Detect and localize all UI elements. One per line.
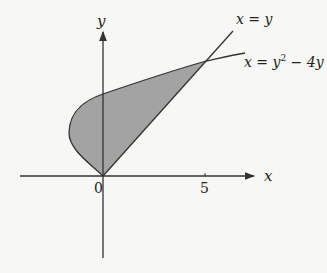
x-axis-label: x — [264, 167, 273, 185]
region-diagram: y x 0 5 x = y x = y2 − 4y — [0, 0, 327, 273]
y-axis-label: y — [96, 12, 106, 30]
origin-label: 0 — [94, 180, 103, 196]
x-tick-label-5: 5 — [200, 180, 209, 196]
parabola-equation-label: x = y2 − 4y — [244, 53, 325, 70]
shaded-region — [69, 61, 206, 176]
line-equation-label: x = y — [236, 11, 274, 27]
parabola-equation-rhs: − 4y — [286, 54, 325, 70]
parabola-equation-lhs: x = y — [244, 54, 282, 70]
